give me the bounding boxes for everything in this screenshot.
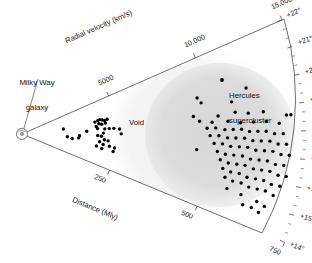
galaxy-point — [247, 185, 250, 188]
galaxy-point — [78, 134, 81, 137]
hercules-label-line1: Hercules — [229, 92, 271, 100]
galaxy-point — [243, 164, 246, 167]
galaxy-point — [108, 145, 111, 148]
galaxy-point — [276, 174, 279, 177]
declination-minor-tick — [299, 83, 302, 84]
galaxy-point — [227, 161, 230, 164]
galaxy-point — [102, 131, 105, 134]
axis-tick — [108, 170, 110, 174]
milky-way-marker — [16, 128, 27, 139]
galaxy-point — [232, 153, 235, 156]
axis-tick — [195, 206, 197, 210]
declination-tick — [289, 214, 294, 215]
galaxy-point — [278, 122, 281, 125]
galaxy-point — [98, 140, 101, 143]
galaxy-point — [101, 143, 104, 146]
galaxy-point — [205, 126, 208, 129]
galaxy-point — [224, 153, 227, 156]
declination-minor-tick — [294, 205, 297, 206]
galaxy-point — [238, 172, 241, 175]
galaxy-point — [239, 181, 242, 184]
galaxy-point — [231, 179, 234, 182]
galaxy-point — [260, 168, 263, 171]
galaxy-point — [254, 148, 257, 151]
galaxy-point — [282, 132, 285, 135]
galaxy-point — [246, 146, 249, 149]
galaxy-point — [208, 134, 211, 137]
declination-tick — [277, 20, 282, 22]
galaxy-point — [250, 206, 253, 209]
declination-tick-20: +20° — [305, 65, 312, 76]
declination-tick — [280, 240, 285, 242]
galaxy-point — [241, 154, 244, 157]
galaxy-point — [100, 147, 103, 150]
declination-minor-tick — [295, 65, 298, 66]
declination-minor-tick — [288, 223, 291, 224]
declination-tick — [287, 47, 292, 49]
galaxy-point — [223, 176, 226, 179]
galaxy-point — [235, 162, 238, 165]
galaxy-point — [195, 96, 198, 99]
declination-tick-19: +19° — [310, 95, 312, 104]
galaxy-point — [285, 113, 288, 116]
milky-way-label-line2: galaxy — [6, 104, 68, 112]
hercules-supercluster-wedge-diagram: Milky Way galaxy Void Hercules superclus… — [0, 0, 312, 263]
galaxy-point — [214, 126, 217, 129]
galaxy-point — [264, 189, 267, 192]
galaxy-point — [285, 175, 288, 178]
hercules-supercluster-label: Hercules supercluster — [229, 75, 271, 142]
galaxy-point — [120, 132, 123, 135]
axis-tick — [107, 92, 109, 96]
galaxy-point — [108, 127, 111, 130]
hercules-label-line2: supercluster — [229, 117, 271, 125]
galaxy-point — [111, 150, 114, 153]
galaxy-point — [263, 205, 266, 208]
declination-minor-tick — [296, 196, 299, 197]
galaxy-point — [96, 127, 99, 130]
galaxy-point — [229, 145, 232, 148]
galaxy-point — [268, 170, 271, 173]
galaxy-point — [85, 130, 88, 133]
galaxy-point — [238, 145, 241, 148]
declination-tick — [296, 187, 301, 188]
declination-tick-17: +17° — [310, 155, 312, 164]
milky-way-label-line1: Milky Way — [6, 79, 68, 87]
galaxy-point — [66, 135, 69, 138]
galaxy-point — [256, 187, 259, 190]
galaxy-point — [223, 128, 226, 131]
galaxy-point — [278, 185, 281, 188]
galaxy-point — [217, 134, 220, 137]
galaxy-point — [70, 137, 73, 140]
galaxy-point — [282, 164, 285, 167]
galaxy-point — [270, 183, 273, 186]
axis-tick — [283, 242, 285, 246]
galaxy-point — [216, 114, 219, 117]
galaxy-point — [263, 149, 266, 152]
galaxy-point — [104, 121, 107, 124]
galaxy-point — [118, 127, 121, 130]
galaxy-point — [271, 150, 274, 153]
galaxy-point — [239, 193, 242, 196]
axis-tick — [194, 54, 196, 58]
galaxy-point — [100, 123, 103, 126]
galaxy-point — [273, 132, 276, 135]
declination-minor-tick — [285, 232, 288, 233]
axis-tick — [280, 16, 282, 20]
galaxy-point — [229, 170, 232, 173]
galaxy-point — [212, 142, 215, 145]
galaxy-point — [95, 144, 98, 147]
void-label: Void — [129, 119, 144, 127]
galaxy-point — [103, 138, 106, 141]
galaxy-point — [221, 142, 224, 145]
galaxy-point — [198, 120, 201, 123]
galaxy-point — [288, 154, 291, 157]
galaxy-point — [279, 153, 282, 156]
galaxy-point — [96, 134, 99, 137]
galaxy-point — [289, 113, 292, 116]
galaxy-point — [100, 135, 103, 138]
galaxy-point — [254, 177, 257, 180]
galaxy-point — [221, 167, 224, 170]
declination-tick — [299, 102, 304, 103]
galaxy-point — [210, 121, 213, 124]
hercules-label-marker-dot — [220, 78, 224, 82]
